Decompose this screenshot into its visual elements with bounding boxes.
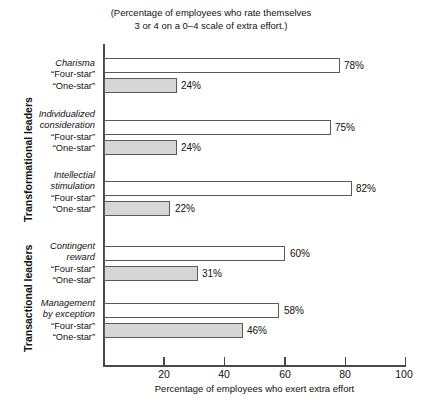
series-label-one-star: “One-star” — [9, 204, 95, 215]
bar-contingent-reward-one-star[interactable] — [104, 266, 198, 281]
bar-charisma-one-star[interactable] — [104, 78, 177, 93]
row-label-intellectial-stimulation: Intellectial stimulation “Four-star” “On… — [9, 170, 95, 216]
x-tick-60 — [284, 357, 285, 366]
x-tick-label-40: 40 — [218, 368, 230, 380]
series-label-one-star: “One-star” — [9, 275, 95, 286]
category-name: Charisma — [9, 58, 95, 69]
bar-intellectial-stimulation-one-star[interactable] — [104, 201, 170, 216]
x-axis-title: Percentage of employees who exert extra … — [103, 383, 406, 394]
bar-value-individualized-consideration-four-star: 75% — [335, 120, 355, 135]
bar-individualized-consideration-one-star[interactable] — [104, 140, 177, 155]
category-name-line-1: Intellectial — [9, 170, 95, 181]
category-name-line-2: consideration — [9, 120, 95, 131]
bar-value-intellectial-stimulation-four-star: 82% — [356, 181, 376, 196]
bar-value-contingent-reward-four-star: 60% — [290, 246, 310, 261]
category-name-line-1: Contingent — [9, 241, 95, 252]
category-name-line-2: stimulation — [9, 181, 95, 192]
series-label-four-star: “Four-star” — [9, 321, 95, 332]
x-tick-80 — [345, 357, 346, 366]
bar-chart: Transformational leaders Transactional l… — [0, 0, 422, 402]
bar-value-management-by-exception-four-star: 58% — [284, 303, 304, 318]
bar-value-management-by-exception-one-star: 46% — [247, 323, 267, 338]
bar-value-charisma-one-star: 24% — [181, 78, 201, 93]
category-name-line-2: by exception — [9, 309, 95, 320]
series-label-one-star: “One-star” — [9, 81, 95, 92]
row-label-management-by-exception: Management by exception “Four-star” “One… — [9, 298, 95, 344]
bar-individualized-consideration-four-star[interactable] — [104, 120, 331, 135]
category-name-line-2: reward — [9, 252, 95, 263]
bar-value-intellectial-stimulation-one-star: 22% — [175, 201, 195, 216]
series-label-four-star: “Four-star” — [9, 132, 95, 143]
x-axis-line — [103, 365, 406, 367]
x-tick-label-20: 20 — [158, 368, 170, 380]
series-label-one-star: “One-star” — [9, 332, 95, 343]
x-tick-100 — [405, 357, 406, 366]
series-label-four-star: “Four-star” — [9, 264, 95, 275]
bar-value-contingent-reward-one-star: 31% — [202, 266, 222, 281]
row-label-individualized-consideration: Individualized consideration “Four-star”… — [9, 109, 95, 155]
x-tick-label-60: 60 — [279, 368, 291, 380]
x-tick-40 — [224, 357, 225, 366]
bar-intellectial-stimulation-four-star[interactable] — [104, 181, 352, 196]
series-label-four-star: “Four-star” — [9, 69, 95, 80]
x-tick-20 — [163, 357, 164, 366]
row-label-contingent-reward: Contingent reward “Four-star” “One-star” — [9, 241, 95, 287]
bar-management-by-exception-four-star[interactable] — [104, 303, 279, 318]
category-name-line-1: Individualized — [9, 109, 95, 120]
series-label-one-star: “One-star” — [9, 143, 95, 154]
x-tick-label-80: 80 — [339, 368, 351, 380]
bar-charisma-four-star[interactable] — [104, 58, 340, 73]
series-label-four-star: “Four-star” — [9, 193, 95, 204]
bar-value-charisma-four-star: 78% — [344, 58, 364, 73]
category-name-line-1: Management — [9, 298, 95, 309]
bar-value-individualized-consideration-one-star: 24% — [181, 140, 201, 155]
bar-contingent-reward-four-star[interactable] — [104, 246, 285, 261]
bar-management-by-exception-one-star[interactable] — [104, 323, 243, 338]
x-tick-label-100: 100 — [395, 368, 413, 380]
row-label-charisma: Charisma “Four-star” “One-star” — [9, 58, 95, 92]
